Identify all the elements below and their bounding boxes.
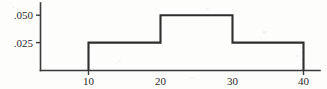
histogram-figure: .050 .025 10 20 30 40	[0, 0, 327, 89]
histogram-chart: .050 .025 10 20 30 40	[0, 0, 327, 89]
histogram-step-outline	[89, 15, 304, 70]
x-tick-label-30: 30	[227, 75, 239, 87]
y-tick-label-025: .025	[14, 37, 34, 49]
x-tick-label-40: 40	[298, 75, 310, 87]
x-tick-label-10: 10	[83, 75, 95, 87]
x-tick-label-20: 20	[155, 75, 167, 87]
y-tick-label-050: .050	[14, 9, 34, 21]
